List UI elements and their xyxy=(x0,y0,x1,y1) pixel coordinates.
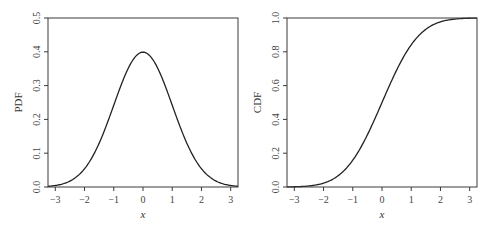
cdf-panel: 0.00.20.40.60.81.0 −3−2−10123 CDF x xyxy=(251,12,477,220)
cdf-x-axis: −3−2−10123 xyxy=(289,187,472,205)
cdf-x-axis-label: x xyxy=(379,208,385,220)
pdf-x-axis: −3−2−10123 xyxy=(50,187,233,205)
y-tick-label: 0.8 xyxy=(270,46,281,59)
x-tick-label: 1 xyxy=(409,194,414,205)
x-tick-label: −3 xyxy=(50,194,61,205)
x-tick-label: 1 xyxy=(170,194,175,205)
y-tick-label: 0.5 xyxy=(31,12,42,25)
y-tick-label: 0.0 xyxy=(31,181,42,194)
pdf-panel: 0.00.10.20.30.40.5 −3−2−10123 PDF x xyxy=(12,12,238,220)
pdf-y-axis-label: PDF xyxy=(12,92,24,112)
x-tick-label: 3 xyxy=(467,194,472,205)
y-tick-label: 0.4 xyxy=(31,46,42,59)
y-tick-label: 1.0 xyxy=(270,12,281,25)
x-tick-label: 3 xyxy=(228,194,233,205)
cdf-y-axis-label: CDF xyxy=(251,92,263,113)
y-tick-label: 0.1 xyxy=(31,147,42,160)
x-tick-label: −1 xyxy=(347,194,358,205)
x-tick-label: 0 xyxy=(141,194,146,205)
y-tick-label: 0.2 xyxy=(31,113,42,126)
chart-canvas: 0.00.10.20.30.40.5 −3−2−10123 PDF x 0.00… xyxy=(0,0,489,230)
x-tick-label: −1 xyxy=(108,194,119,205)
pdf-curve xyxy=(48,52,238,186)
y-tick-label: 0.3 xyxy=(31,79,42,92)
pdf-y-axis: 0.00.10.20.30.40.5 xyxy=(31,12,48,194)
pdf-plot-frame xyxy=(48,18,238,187)
pdf-x-axis-label: x xyxy=(140,208,146,220)
y-tick-label: 0.6 xyxy=(270,79,281,92)
x-tick-label: −2 xyxy=(318,194,329,205)
cdf-curve xyxy=(287,18,477,187)
x-tick-label: −2 xyxy=(79,194,90,205)
y-tick-label: 0.0 xyxy=(270,181,281,194)
x-tick-label: 2 xyxy=(438,194,443,205)
x-tick-label: 0 xyxy=(380,194,385,205)
x-tick-label: 2 xyxy=(199,194,204,205)
y-tick-label: 0.4 xyxy=(270,113,281,126)
x-tick-label: −3 xyxy=(289,194,300,205)
cdf-y-axis: 0.00.20.40.60.81.0 xyxy=(270,12,287,194)
y-tick-label: 0.2 xyxy=(270,147,281,160)
